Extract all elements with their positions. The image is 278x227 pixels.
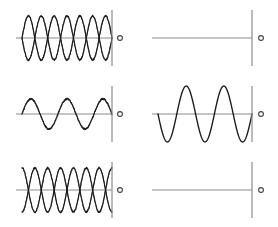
endpoint-marker [259,188,264,193]
waveform-figure [0,0,278,227]
panel-panel-r3c1 [16,162,122,218]
panel-panel-r2c2 [152,86,263,142]
endpoint-marker [118,188,123,193]
panel-panel-r1c2 [152,10,263,66]
endpoint-marker [259,112,264,117]
endpoint-marker [118,112,123,117]
panel-panel-r2c1 [16,86,122,142]
endpoint-marker [259,36,264,41]
waveform-canvas [0,0,278,227]
panel-panel-r1c1 [16,10,122,66]
endpoint-marker [118,36,123,41]
panel-panel-r3c2 [152,162,263,218]
